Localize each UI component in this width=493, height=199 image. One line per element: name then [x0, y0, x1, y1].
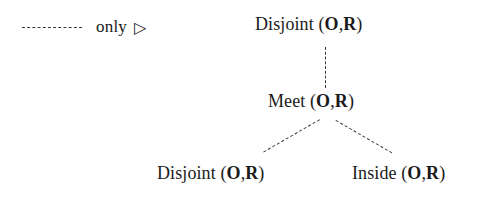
- node-arg-object: O: [407, 163, 421, 183]
- node-close-paren: ): [348, 91, 354, 111]
- node-open-paren: (: [216, 163, 227, 183]
- legend-label: only: [96, 17, 127, 37]
- node-relation-label: Meet: [268, 91, 305, 111]
- tree-node-middle: Meet (O,R): [268, 91, 354, 112]
- diagram-canvas: only ▷ Disjoint (O,R) Meet (O,R) Disjoin…: [0, 0, 493, 199]
- node-close-paren: ): [356, 14, 362, 34]
- legend: only ▷: [22, 16, 146, 38]
- node-relation-label: Disjoint: [157, 163, 216, 183]
- node-open-paren: (: [305, 91, 316, 111]
- node-arg-region: R: [343, 14, 356, 34]
- node-arg-region: R: [335, 91, 348, 111]
- tree-node-leaf-left: Disjoint (O,R): [157, 163, 264, 184]
- node-relation-label: Inside: [352, 163, 397, 183]
- node-arg-object: O: [325, 14, 339, 34]
- node-relation-label: Disjoint: [255, 14, 314, 34]
- node-close-paren: ): [258, 163, 264, 183]
- node-arg-object: O: [227, 163, 241, 183]
- node-close-paren: ): [439, 163, 445, 183]
- legend-dashed-line-sample: [22, 27, 82, 28]
- node-open-paren: (: [314, 14, 325, 34]
- tree-node-leaf-right: Inside (O,R): [352, 163, 445, 184]
- edge-middle-to-leaf-right: [336, 120, 393, 153]
- node-arg-object: O: [316, 91, 330, 111]
- right-pointing-triangle-icon: ▷: [134, 20, 146, 36]
- edge-middle-to-leaf-left: [263, 119, 320, 152]
- node-arg-region: R: [426, 163, 439, 183]
- node-arg-region: R: [245, 163, 258, 183]
- node-open-paren: (: [397, 163, 408, 183]
- tree-node-root: Disjoint (O,R): [255, 14, 362, 35]
- edge-root-to-middle: [325, 47, 326, 88]
